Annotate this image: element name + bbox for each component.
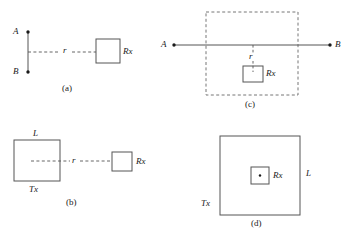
panel-c-label-distance: r: [249, 52, 253, 61]
panel-b-label-transmitter: Tx: [29, 185, 38, 194]
panel-c-label-terminal-right: B: [335, 40, 341, 49]
panel-a-graphics: [26, 30, 120, 73]
panel-d-label-aperture-side: L: [306, 169, 311, 178]
panel-c-terminal-dot-right: [328, 43, 331, 46]
panel-d-label-receiver: Rx: [273, 171, 283, 180]
panel-b-caption: (b): [66, 198, 77, 207]
panel-a-label-terminal-bottom: B: [13, 67, 19, 76]
figure-canvas: [0, 0, 346, 246]
panel-c-label-receiver: Rx: [266, 69, 276, 78]
panel-c-terminal-dot-left: [172, 43, 175, 46]
panel-d-graphics: [220, 136, 300, 215]
panel-a-terminal-dot-top: [26, 30, 29, 33]
panel-a-terminal-dot-bottom: [26, 70, 29, 73]
panel-c-label-terminal-left: A: [161, 40, 167, 49]
panel-b-receiver-box: [112, 152, 132, 171]
panel-a-label-receiver: Rx: [123, 47, 133, 56]
panel-d-centre-point: [259, 174, 261, 176]
panel-b-transmitter-box: [14, 140, 60, 181]
panel-c-caption: (c): [245, 100, 255, 109]
figure-root: A B r Rx (a) A B r Rx (c) L Tx r Rx (b) …: [0, 0, 346, 246]
panel-a-label-distance: r: [63, 46, 67, 55]
panel-a-label-terminal-top: A: [13, 27, 19, 36]
panel-b-label-receiver: Rx: [136, 157, 146, 166]
panel-d-caption: (d): [251, 219, 262, 228]
panel-d-label-transmitter: Tx: [201, 199, 210, 208]
panel-b-label-aperture-side: L: [33, 129, 38, 138]
panel-a-caption: (a): [62, 84, 72, 93]
panel-a-receiver-box: [96, 39, 120, 63]
panel-b-label-distance: r: [72, 156, 76, 165]
